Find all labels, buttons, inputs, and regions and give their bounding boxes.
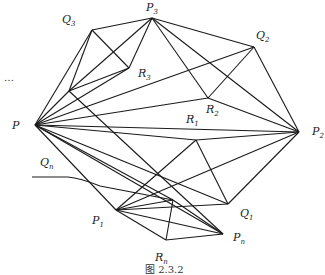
segment-P-Q3: [35, 30, 92, 125]
ellipsis-text: …: [4, 72, 14, 83]
segment-P3-Q2: [152, 18, 254, 47]
segment-P1-Rn: [116, 210, 166, 240]
diagram-lines: [0, 0, 325, 275]
segment-Q3-P3: [92, 18, 152, 30]
point-label: R1: [186, 114, 199, 128]
segment-R2-P2: [208, 98, 299, 132]
segment-Q2-P2: [254, 47, 299, 132]
segment-P-Q2: [35, 47, 254, 125]
segment-Q3-A: [69, 30, 92, 91]
point-label: Q3: [62, 14, 76, 28]
segment-P-R2: [35, 98, 208, 125]
point-label: P3: [146, 2, 158, 16]
geometry-diagram: … Q3P3R3Q2R2R1P2PQnP1Q1PnRn 图 2.3.2: [0, 0, 325, 275]
segment-B-Rn: [166, 200, 173, 240]
point-label: Q1: [240, 208, 254, 222]
segment-Q1-P2: [228, 132, 299, 204]
segment-P3-R3: [129, 18, 152, 68]
figure-caption: 图 2.3.2: [145, 261, 184, 275]
point-label: R3: [138, 68, 151, 82]
segment-A-R3: [69, 68, 129, 91]
point-label: Pn: [233, 232, 245, 246]
point-label: P: [12, 120, 19, 131]
point-label: P2: [312, 126, 324, 140]
segment-Q3-R3: [92, 30, 129, 68]
segment-P2-P1: [116, 132, 299, 210]
segment-A-Pn: [69, 91, 223, 234]
point-label: Q2: [256, 30, 270, 44]
point-label: P1: [92, 215, 104, 229]
segment-P3-R2: [152, 18, 208, 98]
point-label: R2: [206, 104, 219, 118]
segment-Rn-Pn: [166, 234, 223, 240]
point-label: Qn: [40, 157, 54, 171]
segment-R1-Q1: [196, 140, 228, 204]
